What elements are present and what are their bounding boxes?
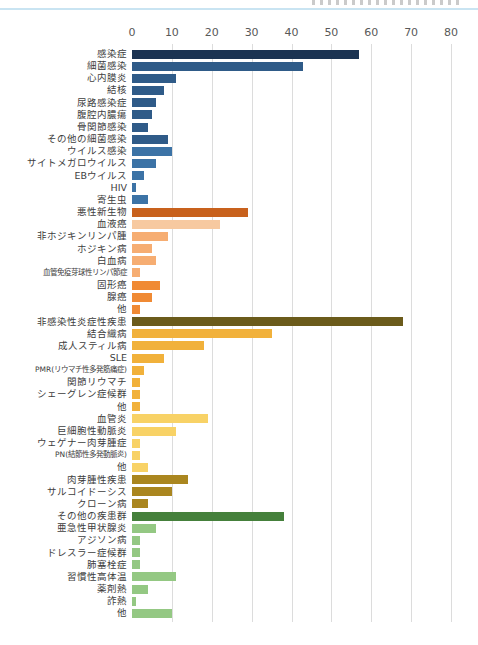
category-label: ホジキン病 bbox=[0, 243, 127, 255]
bar-row: サルコイドーシス bbox=[0, 486, 478, 498]
x-tick-label: 0 bbox=[117, 26, 147, 39]
category-label: 非ホジキンリンパ腫 bbox=[0, 230, 127, 242]
bar bbox=[132, 147, 172, 156]
category-label: その他の細菌感染 bbox=[0, 133, 127, 145]
bar bbox=[132, 256, 156, 265]
bar-row: 寄生虫 bbox=[0, 194, 478, 206]
bar-row: 関節リウマチ bbox=[0, 376, 478, 388]
category-label: 成人スティル病 bbox=[0, 340, 127, 352]
category-label: 血管炎 bbox=[0, 413, 127, 425]
bar-row: 固形癌 bbox=[0, 279, 478, 291]
bar-row: 非ホジキンリンパ腫 bbox=[0, 230, 478, 242]
x-tick-label: 50 bbox=[316, 26, 346, 39]
bar bbox=[132, 427, 176, 436]
bar bbox=[132, 329, 272, 338]
bar-row: 心内膜炎 bbox=[0, 72, 478, 84]
category-label: 尿路感染症 bbox=[0, 97, 127, 109]
bar-row: 他 bbox=[0, 461, 478, 473]
bar bbox=[132, 110, 152, 119]
category-label: ウイルス感染 bbox=[0, 145, 127, 157]
bar bbox=[132, 439, 140, 448]
bar-row: 結合織病 bbox=[0, 328, 478, 340]
bar-row: アジソン病 bbox=[0, 534, 478, 546]
category-label: アジソン病 bbox=[0, 534, 127, 546]
category-label: サイトメガロウイルス bbox=[0, 157, 127, 169]
category-label: 詐熱 bbox=[0, 595, 127, 607]
bar bbox=[132, 560, 140, 569]
bar-row: ドレスラー症候群 bbox=[0, 547, 478, 559]
bar bbox=[132, 597, 136, 606]
bar-row: EBウイルス bbox=[0, 170, 478, 182]
bar-row: 血管免疫芽球性リンパ節症 bbox=[0, 267, 478, 279]
bar-row: 他 bbox=[0, 607, 478, 619]
bar bbox=[132, 536, 140, 545]
bar bbox=[132, 378, 140, 387]
bar bbox=[132, 50, 359, 59]
bar bbox=[132, 475, 188, 484]
bar bbox=[132, 232, 168, 241]
bar bbox=[132, 414, 208, 423]
bar-row: ホジキン病 bbox=[0, 243, 478, 255]
category-label: PN(結節性多発動脈炎) bbox=[0, 449, 127, 461]
category-label: 他 bbox=[0, 607, 127, 619]
bar bbox=[132, 244, 152, 253]
category-label: 他 bbox=[0, 401, 127, 413]
bar bbox=[132, 98, 156, 107]
bar bbox=[132, 281, 160, 290]
x-tick-label: 20 bbox=[197, 26, 227, 39]
bar-row: 薬剤熱 bbox=[0, 583, 478, 595]
bar bbox=[132, 159, 156, 168]
bar-row: ウェゲナー肉芽腫症 bbox=[0, 437, 478, 449]
bar bbox=[132, 548, 140, 557]
category-label: 細菌感染 bbox=[0, 60, 127, 72]
category-label: クローン病 bbox=[0, 498, 127, 510]
bar bbox=[132, 463, 148, 472]
bar-row: 悪性新生物 bbox=[0, 206, 478, 218]
bar-row: 巨細胞性動脈炎 bbox=[0, 425, 478, 437]
category-label: ウェゲナー肉芽腫症 bbox=[0, 437, 127, 449]
bar-row: サイトメガロウイルス bbox=[0, 157, 478, 169]
category-label: 巨細胞性動脈炎 bbox=[0, 425, 127, 437]
category-label: 固形癌 bbox=[0, 279, 127, 291]
category-label: 関節リウマチ bbox=[0, 376, 127, 388]
bar bbox=[132, 585, 148, 594]
category-label: 他 bbox=[0, 461, 127, 473]
category-label: 他 bbox=[0, 303, 127, 315]
bar bbox=[132, 195, 148, 204]
bar-row: 詐熱 bbox=[0, 595, 478, 607]
category-label: PMR(リウマチ性多発筋痛症) bbox=[0, 364, 127, 376]
bar bbox=[132, 524, 156, 533]
bar bbox=[132, 609, 172, 618]
bar bbox=[132, 171, 144, 180]
bar-row: 成人スティル病 bbox=[0, 340, 478, 352]
bar-row: 肉芽腫性疾患 bbox=[0, 474, 478, 486]
bar-row: 習慣性高体温 bbox=[0, 571, 478, 583]
category-label: EBウイルス bbox=[0, 170, 127, 182]
category-label: その他の疾患群 bbox=[0, 510, 127, 522]
category-label: 習慣性高体温 bbox=[0, 571, 127, 583]
bar bbox=[132, 341, 204, 350]
x-tick-label: 30 bbox=[237, 26, 267, 39]
bar bbox=[132, 220, 220, 229]
category-label: HIV bbox=[0, 182, 127, 194]
bar-row: 他 bbox=[0, 303, 478, 315]
bar-row: シェーグレン症候群 bbox=[0, 388, 478, 400]
category-label: 血液癌 bbox=[0, 218, 127, 230]
bar-row: 腹腔内膿瘍 bbox=[0, 109, 478, 121]
bar-row: 細菌感染 bbox=[0, 60, 478, 72]
bar bbox=[132, 135, 168, 144]
bar bbox=[132, 402, 140, 411]
bar-row: その他の疾患群 bbox=[0, 510, 478, 522]
bar bbox=[132, 512, 284, 521]
bar-row: 血液癌 bbox=[0, 218, 478, 230]
bar bbox=[132, 499, 148, 508]
category-label: 腹腔内膿瘍 bbox=[0, 109, 127, 121]
category-label: 感染症 bbox=[0, 48, 127, 60]
x-tick-label: 60 bbox=[356, 26, 386, 39]
bar-row: ウイルス感染 bbox=[0, 145, 478, 157]
bar bbox=[132, 487, 172, 496]
category-label: 腺癌 bbox=[0, 291, 127, 303]
category-label: ドレスラー症候群 bbox=[0, 547, 127, 559]
category-label: 骨関節感染 bbox=[0, 121, 127, 133]
x-tick-label: 10 bbox=[157, 26, 187, 39]
